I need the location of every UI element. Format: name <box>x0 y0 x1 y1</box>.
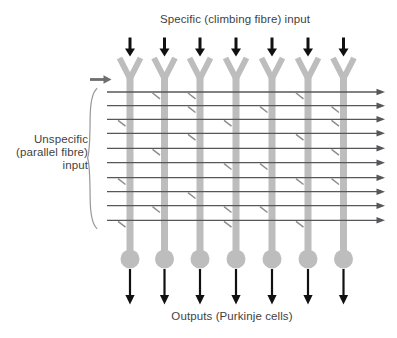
diagram-canvas: Specific (climbing fibre) input Unspecif… <box>0 0 397 338</box>
purkinje-soma-circles <box>121 250 354 269</box>
left-label-line-1: Unspecific <box>16 133 88 146</box>
left-label-line-3: input <box>16 159 88 172</box>
parallel-fibre-input-arrow-icon <box>90 75 112 84</box>
title-climbing-fibre-input: Specific (climbing fibre) input <box>160 13 310 25</box>
left-label-line-2: (parallel fibre) <box>16 146 88 159</box>
left-brace <box>88 88 98 229</box>
label-outputs: Outputs (Purkinje cells) <box>171 310 292 322</box>
climbing-fibre-arrow-icons <box>125 38 349 57</box>
purkinje-dendrites <box>120 58 355 250</box>
label-parallel-fibre-input: Unspecific (parallel fibre) input <box>16 133 88 173</box>
output-arrow-icons <box>125 269 348 305</box>
